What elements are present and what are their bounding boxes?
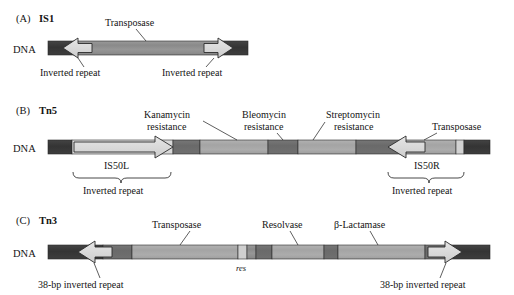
panel-c: (C) Tn3 DNA Transposase Resolvase β-Lact…: [13, 215, 490, 290]
panel-a-inverted-repeat-right-leader: [206, 58, 214, 67]
panel-a-inverted-repeat-left-label: Inverted repeat: [40, 67, 100, 78]
panel-b-streptomycin-leader: [313, 122, 325, 140]
panel-b-spacer-1: [173, 140, 200, 154]
panel-a-inverted-repeat-right-label: Inverted repeat: [162, 67, 222, 78]
panel-b-transposase-label: Transposase: [432, 121, 482, 132]
panel-a-transposase-label: Transposase: [105, 17, 155, 28]
panel-b-streptomycin-segment: [298, 140, 356, 154]
panel-c-inverted-repeat-right-leader: [440, 263, 446, 278]
panel-b-kanamycin-leader: [203, 121, 237, 140]
panel-b: (B) Tn5 DNA Kanamycin resistance Bleomyc…: [13, 105, 490, 196]
panel-b-dna-label: DNA: [13, 143, 36, 154]
panel-b-name: Tn5: [39, 105, 57, 116]
panel-b-inverted-repeat-left-brace: [73, 172, 171, 183]
panel-c-res-site: [238, 245, 247, 259]
panel-a-transposase-body: [75, 41, 221, 55]
panel-a-inverted-repeat-left-leader: [78, 58, 84, 67]
panel-c-name: Tn3: [39, 215, 57, 226]
panel-c-inverted-repeat-left-arrow: [78, 241, 112, 263]
panel-b-kanamycin-label-line1: Kanamycin: [144, 109, 190, 120]
panel-a-dna-label: DNA: [13, 44, 36, 55]
panel-b-is50l-arrow: [74, 136, 173, 158]
panel-b-bleomycin-leader: [277, 133, 283, 140]
panel-c-inverted-repeat-right-arrow: [428, 241, 462, 263]
panel-c-resolvase-leader: [290, 231, 298, 245]
panel-b-is50r-arrow: [388, 136, 425, 158]
panel-c-spacer-2: [256, 245, 272, 259]
panel-c-inverted-repeat-right-label: 38-bp inverted repeat: [380, 279, 466, 290]
panel-c-transposase-segment: [132, 245, 238, 259]
panel-b-inverted-repeat-left-label: Inverted repeat: [83, 185, 143, 196]
panel-b-bleomycin-label-line2: resistance: [244, 121, 284, 132]
panel-c-spacer-3: [324, 245, 338, 259]
panel-c-beta-lactamase-segment: [338, 245, 425, 259]
transposon-diagram: (A) IS1 DNA Transposase Inverted repeat …: [0, 0, 514, 295]
panel-c-post-res: [247, 245, 256, 259]
panel-b-bleomycin-segment: [268, 140, 298, 154]
panel-c-inverted-repeat-left-label: 38-bp inverted repeat: [38, 279, 124, 290]
panel-c-beta-lactamase-leader: [370, 231, 378, 245]
panel-b-is50r-label: IS50R: [414, 160, 440, 171]
panel-c-transposase-label: Transposase: [152, 219, 202, 230]
panel-b-inverted-repeat-right-label: Inverted repeat: [392, 185, 452, 196]
panel-b-streptomycin-label-line2: resistance: [334, 121, 374, 132]
panel-b-streptomycin-label-line1: Streptomycin: [326, 109, 380, 120]
panel-a: (A) IS1 DNA Transposase Inverted repeat …: [13, 13, 248, 78]
panel-c-dna-label: DNA: [13, 248, 36, 259]
panel-b-bleomycin-label-line1: Bleomycin: [242, 109, 286, 120]
panel-b-is50l-label: IS50L: [104, 160, 129, 171]
panel-c-inverted-repeat-left-leader: [94, 263, 100, 278]
panel-c-res-label: res: [236, 263, 247, 273]
panel-c-transposase-leader: [180, 231, 190, 245]
panel-a-name: IS1: [39, 13, 54, 24]
panel-b-tag: (B): [16, 105, 31, 117]
panel-b-is50r-tail: [456, 140, 464, 154]
panel-b-dna-right: [464, 140, 490, 154]
panel-a-transposase-leader: [136, 29, 146, 41]
panel-b-kanamycin-label-line2: resistance: [147, 121, 187, 132]
panel-c-resolvase-label: Resolvase: [262, 219, 303, 230]
panel-c-resolvase-segment: [272, 245, 324, 259]
panel-c-beta-lactamase-label: β-Lactamase: [334, 219, 386, 230]
panel-b-inverted-repeat-right-brace: [388, 172, 464, 183]
panel-b-dna-left: [48, 140, 72, 154]
panel-a-tag: (A): [16, 13, 31, 25]
figure-canvas: (A) IS1 DNA Transposase Inverted repeat …: [0, 0, 514, 295]
panel-b-kanamycin-segment: [200, 140, 268, 154]
panel-b-transposase-leader: [424, 133, 437, 140]
panel-c-tag: (C): [16, 215, 31, 227]
